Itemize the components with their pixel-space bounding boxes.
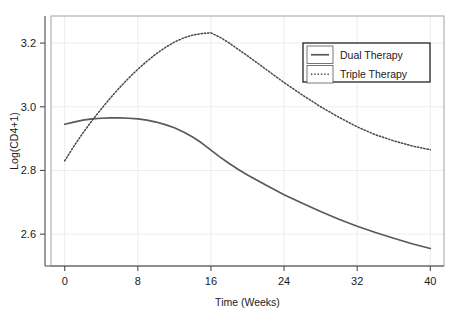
y-tick-label: 3.0 [21, 101, 36, 113]
x-tick-label: 0 [62, 275, 68, 287]
x-tick-label: 32 [351, 275, 363, 287]
legend-label: Triple Therapy [340, 68, 408, 80]
legend-key-box [307, 66, 333, 84]
y-tick-label: 3.2 [21, 37, 36, 49]
legend-label: Dual Therapy [340, 49, 404, 61]
chart-legend: Dual TherapyTriple Therapy [303, 43, 430, 83]
x-tick-label: 16 [205, 275, 217, 287]
cd4-line-chart: 08162432402.62.83.03.2 Time (Weeks)Log(C… [0, 0, 457, 318]
axis-titles: Time (Weeks)Log(CD4+1) [8, 112, 280, 308]
y-tick-label: 2.8 [21, 164, 36, 176]
x-tick-label: 8 [135, 275, 141, 287]
x-tick-label: 40 [424, 275, 436, 287]
series-line-dual-therapy [65, 118, 431, 249]
y-axis-title: Log(CD4+1) [8, 112, 20, 170]
y-tick-label: 2.6 [21, 228, 36, 240]
chart-figure: 08162432402.62.83.03.2 Time (Weeks)Log(C… [0, 0, 457, 318]
x-tick-label: 24 [278, 275, 290, 287]
x-axis-title: Time (Weeks) [215, 296, 280, 308]
